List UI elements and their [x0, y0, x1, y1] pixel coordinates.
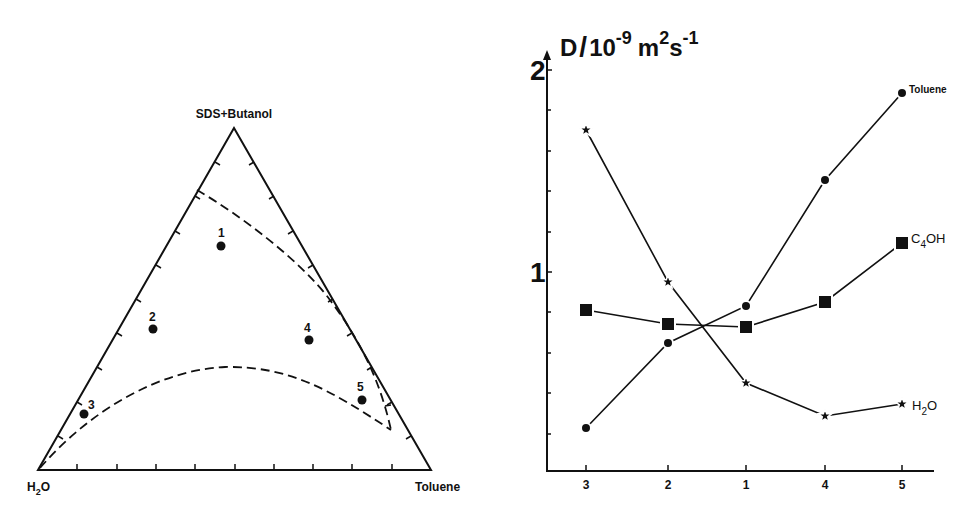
ternary-diagram: 1 2 3 4 5 SDS+Butanol H2O Toluene [27, 107, 460, 497]
diffusion-line-chart: 2 1 D/10-9m2s-1 3 2 1 4 5 [530, 28, 947, 492]
ternary-triangle [38, 128, 431, 470]
h2o-star-icon-3 [579, 123, 592, 136]
y-axis-title: D/10-9m2s-1 [560, 28, 699, 62]
vertex-label-toluene: Toluene [415, 480, 460, 494]
x-tick-label-1: 1 [743, 478, 750, 492]
point-4 [305, 336, 314, 345]
toluene-point-2 [663, 338, 673, 348]
vertex-label-top: SDS+Butanol [196, 107, 272, 121]
point-label-2: 2 [149, 310, 156, 324]
series-label-h2o: H2O [912, 398, 937, 417]
point-5 [358, 396, 367, 405]
c4oh-point-3 [579, 303, 593, 317]
composition-points [80, 242, 367, 419]
x-tick-label-2: 2 [665, 478, 672, 492]
series-h2o [579, 123, 908, 422]
series-label-c4oh: C4OH [911, 231, 945, 250]
boundary-tie-line [385, 405, 391, 406]
c4oh-point-5 [895, 236, 909, 250]
series-c4oh [579, 236, 909, 334]
x-tick-label-3: 3 [583, 478, 590, 492]
c4oh-point-1 [739, 320, 753, 334]
point-label-5: 5 [357, 380, 364, 394]
series-label-toluene: Toluene [909, 84, 947, 95]
h2o-star-icon-5 [895, 397, 908, 410]
c4oh-point-2 [661, 317, 675, 331]
point-label-4: 4 [304, 321, 311, 335]
point-label-3: 3 [88, 398, 95, 412]
lower-phase-boundary [40, 367, 391, 468]
point-1 [217, 242, 226, 251]
point-2 [149, 325, 158, 334]
x-tick-label-4: 4 [822, 478, 829, 492]
point-label-1: 1 [218, 226, 225, 240]
upper-phase-boundary [197, 190, 391, 430]
figure-canvas: 1 2 3 4 5 SDS+Butanol H2O Toluene [0, 0, 966, 515]
c4oh-point-4 [818, 295, 832, 309]
y-tick-label-2: 2 [530, 55, 546, 86]
vertex-label-water: H2O [27, 480, 50, 497]
toluene-point-1 [741, 301, 751, 311]
toluene-point-4 [820, 175, 830, 185]
toluene-point-5 [897, 88, 907, 98]
ternary-left-ticks [58, 162, 220, 439]
h2o-star-icon-4 [818, 409, 831, 422]
x-tick-label-5: 5 [899, 478, 906, 492]
y-tick-label-1: 1 [530, 257, 546, 288]
h2o-star-icon-2 [661, 275, 674, 288]
toluene-point-3 [581, 423, 591, 433]
